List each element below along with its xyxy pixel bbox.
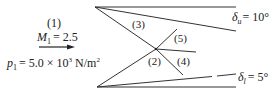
upper-angle-label: δu= 10°	[232, 10, 269, 26]
intersection-point	[155, 48, 157, 50]
shock-interaction-diagram: (1) M1= 2.5 p1= 5.0 × 103 N/m2 (3) (5) (…	[0, 0, 275, 96]
region-5-label: (5)	[174, 32, 187, 45]
region-2-label: (2)	[148, 55, 161, 68]
pressure-label: p1= 5.0 × 103 N/m2	[6, 56, 100, 72]
slip-line	[156, 49, 196, 52]
upper-wall-deflected	[95, 7, 236, 31]
region-4-label: (4)	[177, 55, 190, 68]
lower-wall-deflected-a	[97, 77, 212, 88]
region-1-label: (1)	[47, 16, 61, 30]
lower-angle-label: δl= 5°	[238, 70, 269, 86]
mach-label: M1= 2.5	[36, 30, 78, 46]
lower-wall-deflected-b	[217, 74, 236, 76]
upper-shock	[95, 7, 156, 49]
region-3-label: (3)	[132, 18, 145, 31]
diagram-svg: (1) M1= 2.5 p1= 5.0 × 103 N/m2 (3) (5) (…	[0, 0, 275, 96]
flow-arrow-head-icon	[67, 45, 75, 50]
